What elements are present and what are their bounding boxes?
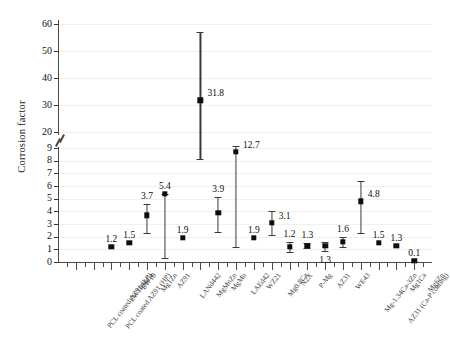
data-point[interactable] [358, 198, 363, 203]
y-tick-mark [54, 262, 58, 263]
x-tick-minor [405, 263, 406, 267]
x-tick-mark [361, 263, 362, 270]
gridline [58, 24, 432, 25]
error-bar-line [147, 204, 148, 233]
y-tick-mark [54, 24, 58, 25]
x-tick-minor [263, 263, 264, 267]
y-tick-mark [54, 211, 58, 212]
data-point-value-label: 4.8 [368, 189, 380, 199]
x-tick-mark [236, 263, 237, 270]
x-tick-mark [272, 263, 273, 270]
x-tick-mark [76, 263, 77, 270]
error-bar-cap-bottom [339, 247, 346, 248]
x-tick-mark [183, 263, 184, 270]
error-bar-line [164, 194, 165, 259]
data-point-value-label: 5.4 [159, 181, 171, 191]
x-tick-minor [227, 263, 228, 267]
y-tick-mark [54, 51, 58, 52]
data-point-value-label: 1.2 [284, 229, 296, 239]
data-point-value-label: 1.3 [301, 230, 313, 240]
x-tick-mark [343, 263, 344, 270]
data-point[interactable] [376, 240, 381, 245]
y-tick-mark [54, 173, 58, 174]
x-tick-minor [316, 263, 317, 267]
data-point[interactable] [162, 191, 167, 196]
data-point[interactable] [322, 243, 327, 248]
x-tick-mark [165, 263, 166, 270]
y-tick-label: 6 [22, 181, 52, 191]
y-tick-label: 5 [22, 193, 52, 203]
data-point-value-label: 12.7 [243, 140, 260, 150]
x-tick-mark [254, 263, 255, 270]
x-tick-mark [200, 263, 201, 270]
x-tick-minor [156, 263, 157, 267]
gridline [58, 132, 432, 133]
error-bar-cap-top [215, 197, 222, 198]
error-bar-line [360, 181, 361, 233]
x-tick-mark [94, 263, 95, 270]
data-point[interactable] [305, 243, 310, 248]
data-point[interactable] [394, 243, 399, 248]
data-point[interactable] [127, 240, 132, 245]
gridline [58, 224, 432, 225]
data-point-value-label: 1.5 [373, 230, 385, 240]
data-point-value-label: 0.1 [408, 248, 420, 258]
x-tick-minor [103, 263, 104, 267]
data-point[interactable] [216, 210, 221, 215]
error-bar-cap-top [233, 146, 240, 147]
x-tick-mark [290, 263, 291, 270]
y-axis-title: Corrosion factor [16, 82, 27, 192]
error-bar-cap-top [339, 237, 346, 238]
data-point-value-label: 1.9 [177, 225, 189, 235]
y-tick-label: 40 [22, 73, 52, 83]
data-point[interactable] [269, 220, 274, 225]
data-point[interactable] [287, 244, 292, 249]
y-tick-label: 8 [22, 155, 52, 165]
x-tick-minor [281, 263, 282, 267]
gridline [58, 173, 432, 174]
x-tick-label: AZ31 [335, 271, 353, 290]
data-point-value-label: 1.2 [105, 234, 117, 244]
error-bar-cap-top [286, 242, 293, 243]
error-bar-cap-bottom [268, 235, 275, 236]
data-point-value-label: 1.9 [248, 225, 260, 235]
error-bar-cap-bottom [144, 233, 151, 234]
error-bar-cap-bottom [286, 252, 293, 253]
data-point[interactable] [233, 149, 238, 154]
data-point[interactable] [180, 235, 185, 240]
y-tick-label: 20 [22, 127, 52, 137]
data-point[interactable] [340, 239, 345, 244]
y-tick-label: 30 [22, 100, 52, 110]
data-point[interactable] [109, 244, 114, 249]
data-point[interactable] [144, 212, 149, 217]
y-tick-mark [54, 249, 58, 250]
error-bar-line [236, 146, 237, 247]
data-point[interactable] [251, 235, 256, 240]
data-point-value-label: 31.8 [207, 88, 224, 98]
y-tick-mark [54, 237, 58, 238]
x-tick-mark [379, 263, 380, 270]
y-tick-label: 2 [22, 231, 52, 241]
y-tick-mark [54, 199, 58, 200]
data-point[interactable] [411, 258, 416, 263]
error-bar-cap-bottom [215, 232, 222, 233]
x-tick-mark [307, 263, 308, 270]
x-tick-minor [138, 263, 139, 267]
x-tick-minor [174, 263, 175, 267]
x-tick-mark [147, 263, 148, 270]
x-tick-mark [414, 263, 415, 270]
data-point[interactable] [198, 97, 203, 102]
error-bar-cap-top [144, 204, 151, 205]
y-tick-label: 60 [22, 19, 52, 29]
x-tick-minor [245, 263, 246, 267]
y-tick-mark [54, 186, 58, 187]
y-tick-label: 1 [22, 244, 52, 254]
gridline [58, 105, 432, 106]
error-bar-cap-top [357, 181, 364, 182]
x-tick-minor [298, 263, 299, 267]
x-tick-mark [218, 263, 219, 270]
gridline [58, 51, 432, 52]
x-tick-label: WE43 [353, 271, 372, 291]
data-point-value-label: 1.6 [337, 224, 349, 234]
